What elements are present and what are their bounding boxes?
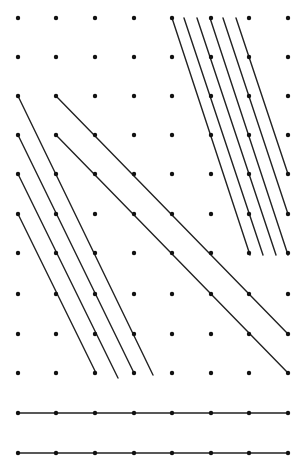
- grid-dot: [209, 251, 213, 255]
- grid-dot: [209, 133, 213, 137]
- grid-dot: [16, 172, 20, 176]
- grid-dot: [16, 16, 20, 20]
- grid-dot: [54, 332, 58, 336]
- grid-dot: [16, 133, 20, 137]
- grid-dot: [170, 172, 174, 176]
- grid-dot: [54, 251, 58, 255]
- grid-dot: [170, 212, 174, 216]
- grid-dot: [93, 172, 97, 176]
- grid-dot: [16, 94, 20, 98]
- grid-dot: [170, 94, 174, 98]
- grid-dot: [16, 451, 20, 455]
- grid-dot: [170, 411, 174, 415]
- grid-dot: [54, 212, 58, 216]
- grid-dot: [209, 332, 213, 336]
- grid-dot: [93, 94, 97, 98]
- grid-dot: [247, 411, 251, 415]
- grid-dot: [247, 212, 251, 216]
- grid-dot: [286, 172, 290, 176]
- grid-dot: [247, 451, 251, 455]
- grid-dot: [209, 55, 213, 59]
- grid-dot: [286, 292, 290, 296]
- grid-dot: [54, 133, 58, 137]
- grid-dot: [286, 251, 290, 255]
- grid-dot: [170, 292, 174, 296]
- grid-dot: [286, 133, 290, 137]
- grid-dot: [54, 94, 58, 98]
- grid-dot: [54, 55, 58, 59]
- grid-dot: [132, 16, 136, 20]
- grid-dot: [54, 172, 58, 176]
- grid-dot: [16, 371, 20, 375]
- grid-dot: [132, 371, 136, 375]
- grid-dot: [247, 55, 251, 59]
- grid-dot: [286, 16, 290, 20]
- grid-dot: [247, 371, 251, 375]
- grid-dot: [247, 172, 251, 176]
- grid-dot: [16, 292, 20, 296]
- grid-dot: [209, 94, 213, 98]
- grid-dot: [286, 212, 290, 216]
- grid-dot: [170, 251, 174, 255]
- grid-dot: [209, 371, 213, 375]
- grid-dot: [247, 133, 251, 137]
- grid-dot: [93, 212, 97, 216]
- grid-dot: [132, 332, 136, 336]
- grid-dot: [93, 133, 97, 137]
- grid-dot: [247, 292, 251, 296]
- grid-dot: [132, 292, 136, 296]
- grid-dot: [209, 411, 213, 415]
- grid-dot: [93, 371, 97, 375]
- grid-dot: [54, 451, 58, 455]
- grid-dot: [54, 292, 58, 296]
- grid-dot: [170, 133, 174, 137]
- grid-dot: [170, 371, 174, 375]
- grid-dot: [132, 94, 136, 98]
- grid-dot: [93, 411, 97, 415]
- grid-dot: [170, 55, 174, 59]
- grid-dot: [93, 292, 97, 296]
- grid-dot: [54, 371, 58, 375]
- grid-dot: [93, 332, 97, 336]
- grid-dot: [16, 251, 20, 255]
- grid-dot: [132, 172, 136, 176]
- grid-dot: [16, 411, 20, 415]
- grid-dot: [170, 16, 174, 20]
- grid-dot: [132, 55, 136, 59]
- grid-dot: [209, 16, 213, 20]
- grid-dot: [93, 16, 97, 20]
- grid-dot: [54, 411, 58, 415]
- grid-dot: [54, 16, 58, 20]
- grid-dot: [247, 94, 251, 98]
- grid-dot: [286, 332, 290, 336]
- grid-dot: [209, 172, 213, 176]
- grid-dot: [132, 133, 136, 137]
- grid-dot: [286, 55, 290, 59]
- grid-dot: [16, 55, 20, 59]
- grid-dot: [209, 292, 213, 296]
- grid-dot: [209, 212, 213, 216]
- grid-dot: [93, 251, 97, 255]
- grid-dot: [286, 371, 290, 375]
- grid-dot: [132, 451, 136, 455]
- grid-dot: [16, 332, 20, 336]
- grid-dot: [93, 451, 97, 455]
- grid-dot: [247, 16, 251, 20]
- dot-grid-diagram: [0, 0, 306, 471]
- grid-dot: [132, 251, 136, 255]
- grid-dot: [170, 332, 174, 336]
- grid-dot: [132, 411, 136, 415]
- grid-dot: [132, 212, 136, 216]
- grid-dot: [286, 94, 290, 98]
- grid-dot: [93, 55, 97, 59]
- grid-dot: [247, 332, 251, 336]
- grid-dot: [286, 411, 290, 415]
- grid-dot: [286, 451, 290, 455]
- grid-dot: [16, 212, 20, 216]
- grid-dot: [247, 251, 251, 255]
- grid-dot: [209, 451, 213, 455]
- grid-dot: [170, 451, 174, 455]
